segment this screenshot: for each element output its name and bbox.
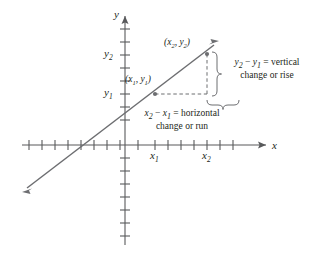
vertical-change-annotation: y2 − y1 = vertical change or rise [226, 57, 308, 80]
vc-minus: − [243, 57, 253, 67]
point-2-label: (x2, y2) [164, 37, 190, 49]
y2-subscript: 2 [109, 53, 113, 62]
y-axis-tick-label-y1: y1 [104, 86, 113, 102]
vertical-brace [212, 52, 222, 96]
x-axis-tick-label-x1: x1 [150, 149, 159, 165]
point-marker-1 [153, 92, 157, 96]
graph-line-arrowhead-upper-right [209, 39, 219, 45]
horizontal-change-annotation: x2 − x1 = horizontal change or run [128, 108, 236, 131]
point-marker-2 [205, 52, 209, 56]
vertical-change-line-2: change or rise [226, 70, 308, 80]
x-axis-label: x [272, 139, 277, 151]
y-axis-tick-label-y2: y2 [104, 47, 113, 63]
point-1-label: (x1, y1) [125, 74, 151, 86]
slope-diagram-figure: y x y2 y1 x1 x2 (x1, y1) (x2, y2) y2 − y… [0, 0, 312, 261]
horizontal-change-line-2: change or run [128, 121, 236, 131]
y1-subscript: 1 [109, 92, 113, 101]
hc-minus: − [153, 108, 163, 118]
dashed-construction-lines [155, 54, 207, 94]
hc-word: horizontal [181, 108, 220, 118]
horizontal-change-line-1: x2 − x1 = horizontal [128, 108, 236, 121]
x-axis-tick-label-x2: x2 [202, 149, 211, 165]
hc-equals: = [171, 108, 181, 118]
p2-close: ) [187, 37, 190, 47]
y-axis-label: y [114, 8, 119, 20]
vertical-change-line-1: y2 − y1 = vertical [226, 57, 308, 70]
x1-subscript: 1 [155, 155, 159, 164]
x2-subscript: 2 [207, 155, 211, 164]
vc-equals: = [261, 57, 271, 67]
vc-word: vertical [271, 57, 299, 67]
graph-line-arrowhead-lower-left [22, 189, 32, 195]
p1-close: ) [148, 74, 151, 84]
x-axis [22, 140, 266, 150]
